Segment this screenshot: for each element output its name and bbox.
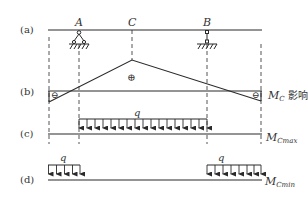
point-label-b: B: [202, 16, 211, 29]
positive-sign-icon: ⊕: [127, 72, 135, 83]
mc-max-label: MCmax: [265, 131, 297, 145]
guide-lines: [49, 30, 261, 144]
load-label-q-d-left: q: [60, 152, 66, 163]
point-label-a: A: [74, 16, 83, 29]
negative-sign-left-icon: ⊖: [51, 90, 59, 100]
row-label-a: (a): [20, 24, 34, 35]
distributed-load-c-arrows: [79, 119, 207, 128]
row-label-c: (c): [20, 128, 34, 139]
row-label-b: (b): [20, 86, 34, 97]
negative-sign-right-icon: ⊖: [252, 90, 260, 100]
load-label-q-c: q: [134, 107, 140, 118]
distributed-load-d-right-arrows: [207, 165, 261, 174]
influence-line-diagram: (a) (b) (c) (d) A C B: [0, 0, 308, 199]
influence-line: [49, 60, 261, 102]
distributed-load-d-left-arrows: [49, 165, 81, 174]
influence-line-label: MC 影响线: [267, 89, 308, 103]
mc-min-label: MCmin: [264, 175, 295, 189]
row-label-d: (d): [20, 174, 34, 185]
point-label-c: C: [128, 16, 137, 29]
load-label-q-d-right: q: [218, 152, 224, 163]
